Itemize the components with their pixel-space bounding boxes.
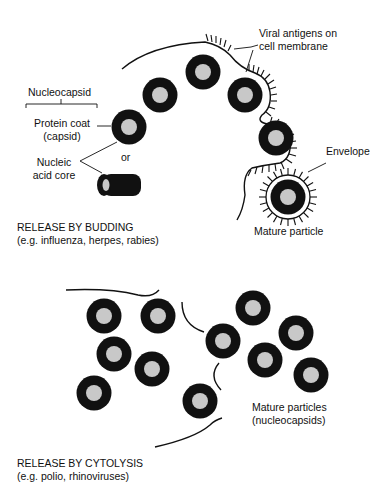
nucleocapsid-particle <box>294 358 329 393</box>
nucleocapsid-particle <box>259 121 294 156</box>
nucleocapsid-particle <box>112 110 147 145</box>
label-line: Nucleic <box>28 156 80 169</box>
label-line: acid core <box>28 169 80 182</box>
label-line: Mature particles <box>252 401 327 414</box>
label-or: or <box>121 151 130 164</box>
virus-release-diagram: Viral antigens on cell membrane Nucleoca… <box>0 0 389 487</box>
nucleocapsid-particle <box>141 299 176 334</box>
nucleocapsid-particle <box>143 78 178 113</box>
nucleocapsid-particle <box>135 352 170 387</box>
label-nucleocapsid: Nucleocapsid <box>28 86 91 99</box>
cytolysis-examples: (e.g. polio, rhinoviruses) <box>17 470 129 483</box>
nucleocapsid-particle <box>206 324 241 359</box>
label-line: Viral antigens on <box>259 27 337 40</box>
nucleocapsid-particle <box>186 55 221 90</box>
label-line: Protein coat <box>30 117 94 130</box>
label-nucleic-acid-core: Nucleic acid core <box>28 156 80 181</box>
cylindrical-nucleocapsid <box>97 174 141 196</box>
nucleocapsid-particle <box>279 316 314 351</box>
mature-enveloped-particle <box>259 168 317 226</box>
label-line: (capsid) <box>30 130 94 143</box>
cytolysis-title: RELEASE BY CYTOLYSIS <box>17 457 143 470</box>
cytolysis-particles <box>77 291 329 419</box>
nucleocapsid-particle <box>77 376 112 411</box>
nucleocapsid-particle <box>236 291 271 326</box>
budding-examples: (e.g. influenza, herpes, rabies) <box>17 234 159 247</box>
label-line: (nucleocapsids) <box>252 414 327 427</box>
label-line: cell membrane <box>259 40 337 53</box>
nucleocapsid-particle <box>87 299 122 334</box>
label-mature-particles: Mature particles (nucleocapsids) <box>252 401 327 426</box>
nucleocapsid-particle <box>248 343 283 378</box>
label-viral-antigens: Viral antigens on cell membrane <box>259 27 337 52</box>
label-mature-particle: Mature particle <box>254 225 323 238</box>
label-envelope: Envelope <box>326 145 370 158</box>
nucleocapsid-particle <box>228 78 263 113</box>
nucleocapsid-particle <box>97 337 132 372</box>
label-protein-coat: Protein coat (capsid) <box>30 117 94 142</box>
budding-particles <box>112 55 294 156</box>
nucleocapsid-particle <box>183 384 218 419</box>
budding-title: RELEASE BY BUDDING <box>17 221 134 234</box>
